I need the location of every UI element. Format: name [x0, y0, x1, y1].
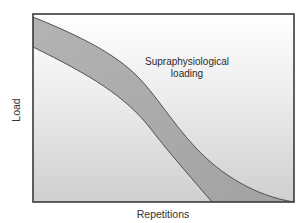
load-repetitions-diagram: Supraphysiological loading Repetitions L… — [0, 0, 308, 223]
annotation-line2: loading — [171, 68, 203, 79]
x-axis-label: Repetitions — [137, 208, 190, 220]
annotation-line1: Supraphysiological — [145, 56, 229, 67]
y-axis-label: Load — [10, 98, 22, 122]
